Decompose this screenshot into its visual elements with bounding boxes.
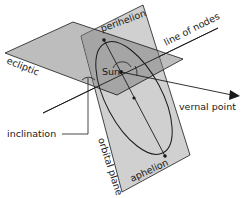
perihelion-point [102, 38, 106, 42]
orbital-elements-diagram: perihelion line of nodes ecliptic Sun ve… [0, 0, 245, 198]
label-sun: Sun [102, 66, 120, 77]
ellipse-center-point [132, 96, 135, 99]
vernal-arrowhead-icon [229, 90, 240, 100]
inclination-leader [62, 78, 88, 134]
label-line-of-nodes: line of nodes [162, 10, 221, 48]
label-inclination: inclination [7, 128, 56, 139]
label-vernal-point: vernal point [179, 101, 236, 112]
